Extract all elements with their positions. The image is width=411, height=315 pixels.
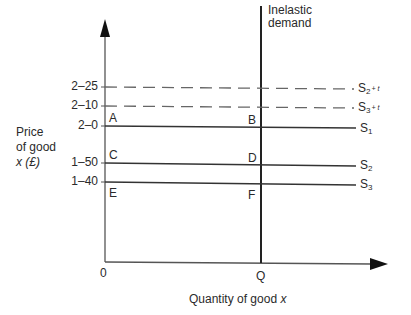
curve-name: S [358, 81, 366, 95]
y-axis-label-line: Price [16, 125, 56, 140]
supply-s3-plus-t-line [105, 106, 354, 108]
y-axis-label-line: of good [16, 140, 56, 155]
y-axis-label: Price of good x (£) [16, 125, 56, 170]
x-axis-label-text: Quantity of good x [189, 292, 286, 306]
point-c: C [109, 148, 118, 162]
curve-name: S [360, 177, 368, 191]
label-s3: S3 [360, 177, 372, 192]
quantity-q-label: Q [256, 269, 265, 283]
point-b: B [248, 113, 256, 127]
curve-name: S [360, 158, 368, 172]
supply-s2-line [105, 163, 356, 166]
x-variable: x [280, 292, 286, 306]
point-e: E [109, 186, 117, 200]
label-s2-plus-t: S2+ t [358, 81, 379, 96]
price-tick-2-00: 2–0 [58, 118, 98, 132]
point-d: D [248, 151, 257, 165]
price-tick-1-40: 1–40 [58, 174, 98, 188]
origin-label: 0 [100, 266, 107, 280]
x-axis [105, 262, 372, 264]
supply-s1-line [105, 126, 356, 128]
curve-name: S [358, 100, 366, 114]
x-axis-arrow-icon [370, 258, 388, 270]
price-tick-1-50: 1–50 [58, 155, 98, 169]
curve-subscript: 3 [366, 106, 370, 115]
demand-label-line: demand [268, 17, 312, 30]
point-f: F [248, 188, 255, 202]
supply-s2-plus-t-line [105, 87, 354, 89]
label-s2: S2 [360, 158, 372, 173]
price-tick-2-10: 2–10 [58, 98, 98, 112]
curve-tax: + t [371, 85, 379, 92]
price-tick-2-25: 2–25 [58, 79, 98, 93]
inelastic-demand-label: Inelastic demand [268, 4, 312, 30]
curve-subscript: 1 [368, 127, 372, 136]
curve-subscript: 2 [366, 87, 370, 96]
y-axis-label-line: x (£) [16, 155, 56, 170]
curve-tax: + t [371, 104, 379, 111]
x-axis-label: Quantity of good x [189, 292, 286, 306]
curve-name: S [360, 121, 368, 135]
point-a: A [109, 111, 117, 125]
supply-s3-line [105, 182, 356, 185]
curve-subscript: 3 [368, 183, 372, 192]
label-s3-plus-t: S3+ t [358, 100, 379, 115]
label-s1: S1 [360, 121, 372, 136]
curve-subscript: 2 [368, 164, 372, 173]
y-axis-arrow-icon [100, 19, 110, 37]
